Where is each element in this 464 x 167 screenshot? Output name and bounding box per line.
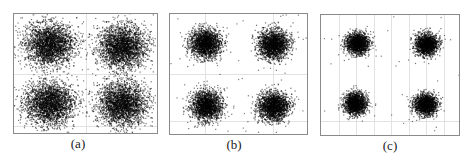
scatter-canvas-c <box>321 15 459 135</box>
constellation-plot-a <box>13 13 158 134</box>
constellation-plot-c <box>320 14 460 136</box>
constellation-plot-b <box>169 13 308 135</box>
scatter-canvas-b <box>170 14 307 134</box>
caption-b: (b) <box>214 137 254 153</box>
caption-a: (a) <box>58 136 98 152</box>
scatter-canvas-a <box>14 14 157 133</box>
caption-c: (c) <box>370 138 410 154</box>
